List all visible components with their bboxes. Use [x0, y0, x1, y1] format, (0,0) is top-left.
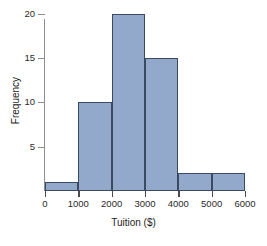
- x-axis-tick: [245, 191, 246, 197]
- histogram-bar: [112, 14, 145, 191]
- plot-area: [45, 14, 245, 191]
- x-axis-title: Tuition ($): [0, 217, 267, 228]
- y-axis-title: Frequency: [10, 56, 21, 146]
- x-axis-tick-label: 6000: [225, 199, 265, 209]
- x-axis-tick: [112, 191, 113, 197]
- histogram-bar: [178, 173, 211, 191]
- x-axis-tick: [178, 191, 179, 197]
- x-axis-tick: [212, 191, 213, 197]
- x-axis-tick: [78, 191, 79, 197]
- y-axis-tick: [38, 58, 45, 59]
- x-axis-tick: [145, 191, 146, 197]
- histogram-bar: [145, 58, 178, 191]
- x-axis-tick: [45, 191, 46, 197]
- histogram-figure: 5101520 0100020003000400050006000 Freque…: [0, 0, 267, 246]
- y-axis-tick-label: 20: [13, 9, 35, 19]
- y-axis-tick: [38, 147, 45, 148]
- y-axis-tick: [38, 14, 45, 15]
- histogram-bar: [212, 173, 245, 191]
- y-axis-tick-label-wrap: 20: [8, 9, 35, 19]
- y-axis-tick: [38, 102, 45, 103]
- histogram-bar: [78, 102, 111, 190]
